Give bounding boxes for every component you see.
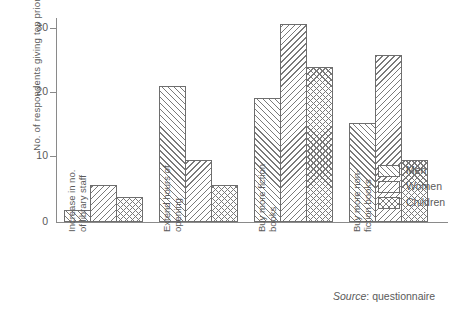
bar-women-1: [185, 160, 212, 222]
x-category-label-2: Buy more fiction books: [256, 164, 278, 232]
y-tick-20: 20: [0, 86, 48, 87]
x-category-label-1-line-1: opening: [172, 165, 183, 232]
legend-item-children: Children: [378, 195, 445, 210]
bar-children-2: [306, 67, 333, 222]
legend-label-children: Children: [406, 197, 445, 208]
x-category-label-3-line-0: Buy more non-: [351, 170, 362, 232]
legend: Men Women Children: [378, 163, 445, 211]
x-category-label-0-line-1: of library staff: [77, 170, 88, 232]
legend-label-women: Women: [406, 181, 442, 192]
x-category-label-0: Increase in no. of library staff: [66, 170, 88, 232]
y-tick-0: 0: [0, 216, 48, 217]
bar-chart-figure: No. of respondents giving top priority 3…: [0, 0, 455, 317]
y-tick-label-20: 20: [26, 86, 48, 97]
x-category-label-2-line-0: Buy more fiction: [256, 164, 267, 232]
y-tick-label-10: 10: [26, 150, 48, 161]
source-note-value: questionnaire: [372, 290, 435, 302]
x-category-label-1-line-0: Extend hours of: [161, 165, 172, 232]
y-tick-30: 30: [0, 22, 48, 23]
bar-women-0: [90, 185, 117, 222]
legend-label-men: Men: [406, 165, 426, 176]
bar-children-1: [211, 185, 238, 222]
legend-swatch-children-icon: [378, 197, 400, 209]
source-note-label: Source: [333, 290, 366, 302]
x-category-label-0-line-0: Increase in no.: [66, 170, 77, 232]
x-category-label-1: Extend hours of opening: [161, 165, 183, 232]
legend-swatch-men-icon: [378, 165, 400, 177]
bar-women-2: [280, 24, 307, 222]
legend-swatch-women-icon: [378, 181, 400, 193]
x-category-label-3: Buy more non- fiction books: [351, 170, 373, 232]
bar-children-0: [116, 197, 143, 222]
x-category-label-3-line-1: fiction books: [362, 170, 373, 232]
x-category-label-2-line-1: books: [267, 164, 278, 232]
y-tick-10: 10: [0, 150, 48, 151]
source-note: Source: questionnaire: [333, 290, 435, 302]
legend-item-women: Women: [378, 179, 445, 194]
y-tick-label-0: 0: [26, 216, 48, 227]
x-axis-line: [56, 222, 448, 223]
legend-item-men: Men: [378, 163, 445, 178]
y-tick-label-30: 30: [26, 22, 48, 33]
